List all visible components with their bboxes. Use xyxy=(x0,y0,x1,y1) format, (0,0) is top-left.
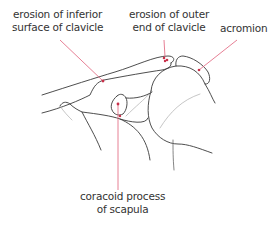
humeral-head xyxy=(151,66,215,103)
marker-acromion xyxy=(198,69,201,72)
marker-inferior-surface xyxy=(102,80,105,83)
faint-line-2 xyxy=(126,92,151,116)
scapula-faint xyxy=(60,106,72,120)
marker-coracoid xyxy=(117,103,120,106)
label-erosion-inferior-surface: erosion of inferior surface of clavicle xyxy=(12,8,103,34)
marker-outer-end-1 xyxy=(163,57,166,60)
humeral-shaft-vertical xyxy=(173,140,174,170)
acromion-outline xyxy=(176,56,210,84)
marker-coracoid-lower xyxy=(119,115,121,117)
label-coracoid-process: coracoid process of scapula xyxy=(80,190,165,216)
marker-outer-end-3 xyxy=(164,60,166,62)
humeral-shaft-left xyxy=(148,91,212,153)
clavicle-upper-edge xyxy=(42,56,174,95)
scapula-upper xyxy=(60,102,148,122)
label-erosion-outer-end: erosion of outer end of clavicle xyxy=(129,8,209,34)
leader-outer-end xyxy=(164,40,165,57)
scapula-border xyxy=(120,119,150,160)
faint-line-1 xyxy=(160,94,200,128)
leader-inferior-surface xyxy=(60,40,103,81)
scapula-lower xyxy=(82,112,101,150)
leader-acromion xyxy=(199,40,237,70)
label-acromion: acromion xyxy=(220,22,267,35)
